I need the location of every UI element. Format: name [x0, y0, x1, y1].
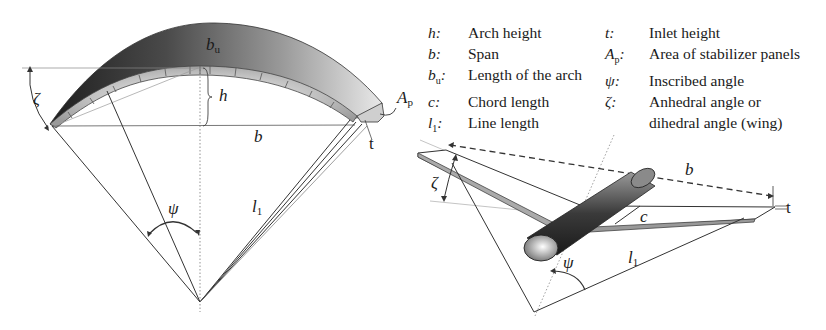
legend-item-zeta-cont: dihedral angle (wing) [605, 112, 800, 133]
wing-label-c: c [640, 207, 648, 226]
legend-item-l1: l1: Line length [428, 112, 582, 139]
legend-item-bu: bu: Length of the arch [428, 64, 582, 91]
legend-item-c: c: Chord length [428, 91, 582, 112]
wing-label-zeta: ζ [431, 173, 439, 192]
label-a-p: Ap [396, 88, 413, 108]
legend-item-t: t: Inlet height [605, 22, 800, 43]
legend-right: t: Inlet height Ap: Area of stabilizer p… [605, 22, 800, 133]
label-l1: l1 [252, 197, 262, 217]
legend-item-h: h: Arch height [428, 22, 582, 43]
left-wing [418, 150, 580, 228]
label-t: t [369, 134, 374, 153]
legend-item-zeta: ζ: Anhedral angle or [605, 91, 800, 112]
label-h: h [219, 86, 228, 105]
legend-item-ap: Ap: Area of stabilizer panels [605, 43, 800, 70]
label-psi: ψ [168, 199, 179, 218]
wing-label-t: t [786, 198, 791, 217]
wing-label-b: b [685, 160, 694, 179]
wing-label-l1: l1 [628, 248, 638, 268]
wing-label-psi: ψ [563, 253, 574, 272]
legend-item-psi: ψ: Inscribed angle [605, 70, 800, 91]
label-zeta: ζ [33, 89, 41, 108]
legend-item-b: b: Span [428, 43, 582, 64]
legend-left: h: Arch height b: Span bu: Length of the… [428, 22, 582, 139]
label-b: b [254, 127, 263, 146]
suspension-lines [52, 91, 367, 302]
wing-perspective-view: b t c ζ ψ l1 [418, 135, 791, 316]
parafoil-front-view: bu h b Ap t ζ ψ l1 [22, 23, 413, 312]
